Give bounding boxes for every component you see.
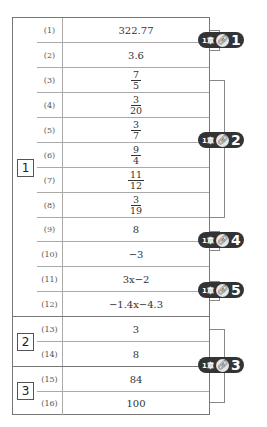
badge-number: 2: [231, 132, 241, 148]
fraction-answer: 1112: [128, 170, 144, 191]
section-number: 1: [17, 159, 34, 177]
answer: 100: [126, 398, 145, 409]
problem-number: (11): [37, 267, 63, 291]
problem-number: (8): [37, 193, 63, 217]
table-row: (13)3: [37, 317, 209, 342]
link-icon: 🔗︎: [216, 134, 229, 147]
table-row: (11)3x−2: [37, 267, 209, 292]
badge-number: 1: [231, 32, 241, 48]
badge-number: 5: [231, 282, 241, 298]
answer: −1.4x−4.3: [109, 299, 163, 310]
denominator: 12: [130, 181, 142, 191]
chapter-link-badge[interactable]: 1章 🔗︎ 1: [198, 32, 244, 48]
bracket-2: [210, 80, 225, 218]
numerator: 3: [131, 120, 141, 131]
table-row: (3)75: [37, 68, 209, 93]
section-number: 2: [17, 333, 34, 351]
badge-number: 4: [231, 232, 241, 248]
denominator: 19: [130, 206, 142, 216]
answer: 3x−2: [123, 274, 150, 285]
answer: 3: [133, 324, 139, 335]
problem-number: (12): [37, 292, 63, 316]
numerator: 11: [128, 170, 144, 181]
section-3: 3: [13, 367, 37, 415]
problem-number: (3): [37, 68, 63, 92]
answer: −3: [129, 249, 144, 260]
chapter-link-badge[interactable]: 1章 🔗︎ 2: [198, 132, 244, 148]
answer-table: 1 2 3 (1)322.77 (2)3.6 (3)75 (4)320 (5)3…: [12, 17, 210, 415]
section-number: 3: [17, 382, 34, 400]
problem-number: (13): [37, 317, 63, 341]
table-row: (16)100: [37, 391, 209, 415]
fraction-answer: 37: [131, 120, 141, 141]
problem-number: (16): [37, 391, 63, 415]
problem-number: (14): [37, 342, 63, 366]
chapter-label: 1章: [202, 360, 214, 370]
link-icon: 🔗︎: [216, 359, 229, 372]
link-icon: 🔗︎: [216, 284, 229, 297]
fraction-answer: 75: [131, 70, 141, 91]
answer: 322.77: [119, 25, 154, 36]
answer: 84: [130, 374, 143, 385]
fraction-answer: 94: [131, 145, 141, 166]
problem-number: (4): [37, 93, 63, 117]
problem-number: (6): [37, 143, 63, 167]
denominator: 4: [133, 156, 139, 166]
denominator: 7: [133, 131, 139, 141]
problem-number: (5): [37, 118, 63, 142]
section-1: 1: [13, 18, 37, 317]
table-row: (9)8: [37, 217, 209, 242]
numerator: 7: [131, 70, 141, 81]
problem-number: (15): [37, 367, 63, 391]
table-row: (7)1112: [37, 168, 209, 193]
problem-number: (9): [37, 217, 63, 241]
fraction-answer: 320: [130, 95, 142, 116]
table-row: (2)3.6: [37, 43, 209, 68]
chapter-label: 1章: [202, 35, 214, 45]
badge-number: 3: [231, 357, 241, 373]
table-row: (1)322.77: [37, 18, 209, 43]
chapter-label: 1章: [202, 135, 214, 145]
table-row: (10)−3: [37, 242, 209, 267]
problem-number: (10): [37, 242, 63, 266]
table-row: (12)−1.4x−4.3: [37, 292, 209, 317]
table-row: (8)319: [37, 193, 209, 218]
table-row: (6)94: [37, 143, 209, 168]
problem-number: (7): [37, 168, 63, 192]
problem-number: (2): [37, 43, 63, 67]
link-icon: 🔗︎: [216, 34, 229, 47]
numerator: 3: [131, 95, 141, 106]
link-icon: 🔗︎: [216, 234, 229, 247]
chapter-label: 1章: [202, 285, 214, 295]
denominator: 5: [133, 81, 139, 91]
chapter-link-badge[interactable]: 1章 🔗︎ 5: [198, 282, 244, 298]
answer: 8: [133, 349, 139, 360]
table-row: (4)320: [37, 93, 209, 118]
table-row: (14)8: [37, 342, 209, 367]
answer: 8: [133, 224, 139, 235]
fraction-answer: 319: [130, 195, 142, 216]
table-row: (5)37: [37, 118, 209, 143]
numerator: 3: [131, 195, 141, 206]
section-2: 2: [13, 317, 37, 367]
answer: 3.6: [128, 50, 144, 61]
problem-number: (1): [37, 18, 63, 42]
table-row: (15)84: [37, 367, 209, 392]
numerator: 9: [131, 145, 141, 156]
chapter-link-badge[interactable]: 1章 🔗︎ 3: [198, 357, 244, 373]
denominator: 20: [130, 106, 142, 116]
chapter-link-badge[interactable]: 1章 🔗︎ 4: [198, 232, 244, 248]
chapter-label: 1章: [202, 235, 214, 245]
